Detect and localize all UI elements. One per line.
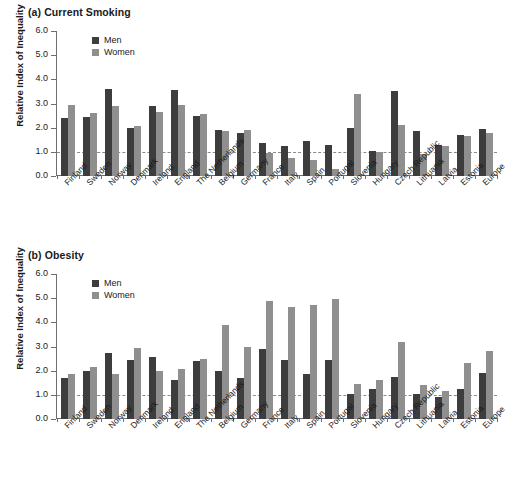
panel-b-x-tick-labels: FinlandSwedenNorwayDenmarkIrelandEngland… <box>0 421 509 487</box>
y-tick-mark <box>51 371 56 372</box>
bar-group <box>303 274 318 419</box>
bar-group <box>127 31 142 176</box>
bar-group <box>171 31 186 176</box>
bar-group <box>391 31 406 176</box>
bar-women <box>68 105 75 176</box>
panel-current-smoking: (a) Current Smoking Relative Index of In… <box>0 0 509 244</box>
y-tick-label: 6.0 <box>2 26 48 35</box>
y-tick-mark <box>51 322 56 323</box>
bar-women <box>310 305 317 419</box>
panel-a-y-axis-title: Relative Index of Inequality <box>14 0 25 141</box>
bar-group <box>237 31 252 176</box>
y-tick-label: 5.0 <box>2 50 48 59</box>
bar-men <box>61 118 68 176</box>
bar-women <box>134 348 141 419</box>
bar-group <box>237 274 252 419</box>
bar-men <box>303 374 310 419</box>
panel-b-y-axis-title: Relative Index of Inequality <box>14 234 25 384</box>
bar-group <box>259 274 274 419</box>
bar-group <box>259 31 274 176</box>
y-tick-mark <box>51 128 56 129</box>
y-tick-mark <box>51 104 56 105</box>
bar-group <box>325 274 340 419</box>
y-tick-label: 4.0 <box>2 74 48 83</box>
bar-men <box>325 360 332 419</box>
y-tick-mark <box>51 298 56 299</box>
bar-group <box>457 274 472 419</box>
bar-group <box>391 274 406 419</box>
bar-group <box>171 274 186 419</box>
bar-group <box>127 274 142 419</box>
y-tick-mark <box>51 395 56 396</box>
bar-group <box>369 274 384 419</box>
bar-women <box>288 307 295 419</box>
bar-men <box>171 90 178 176</box>
bar-group <box>61 31 76 176</box>
y-tick-mark <box>51 79 56 80</box>
y-tick-label: 4.0 <box>2 317 48 326</box>
y-tick-mark <box>51 176 56 177</box>
y-tick-mark <box>51 274 56 275</box>
bar-women <box>178 105 185 176</box>
panel-b-plot: Relative Index of Inequality 0.01.02.03.… <box>0 243 509 487</box>
y-tick-label: 6.0 <box>2 269 48 278</box>
bar-women <box>332 299 339 419</box>
bar-group <box>479 274 494 419</box>
bar-group <box>105 274 120 419</box>
y-tick-mark <box>51 55 56 56</box>
bar-group <box>281 31 296 176</box>
bar-group <box>193 31 208 176</box>
bar-group <box>435 274 450 419</box>
bar-group <box>435 31 450 176</box>
y-tick-label: 5.0 <box>2 293 48 302</box>
y-tick-label: 3.0 <box>2 99 48 108</box>
y-tick-label: 2.0 <box>2 366 48 375</box>
bar-group <box>479 31 494 176</box>
bar-group <box>347 274 362 419</box>
bar-group <box>149 274 164 419</box>
y-tick-mark <box>51 347 56 348</box>
panel-a-plot: Relative Index of Inequality 0.01.02.03.… <box>0 0 509 244</box>
bar-women <box>486 351 493 419</box>
y-tick-mark <box>51 31 56 32</box>
y-tick-label: 1.0 <box>2 147 48 156</box>
bar-group <box>347 31 362 176</box>
bar-women <box>112 106 119 176</box>
bar-group <box>61 274 76 419</box>
bar-group <box>281 274 296 419</box>
bar-group <box>83 31 98 176</box>
bar-group <box>457 31 472 176</box>
bar-men <box>61 378 68 419</box>
bar-group <box>149 31 164 176</box>
y-tick-mark <box>51 152 56 153</box>
y-tick-label: 3.0 <box>2 342 48 351</box>
y-tick-mark <box>51 419 56 420</box>
panel-a-x-tick-labels: FinlandSwedenNorwayDenmarkIrelandEngland… <box>0 178 509 244</box>
bar-women <box>266 301 273 419</box>
panel-obesity: (b) Obesity Relative Index of Inequality… <box>0 243 509 487</box>
bar-group <box>325 31 340 176</box>
bar-group <box>83 274 98 419</box>
bar-group <box>369 31 384 176</box>
bar-group <box>105 31 120 176</box>
bar-group <box>193 274 208 419</box>
bar-group <box>303 31 318 176</box>
y-tick-label: 1.0 <box>2 390 48 399</box>
y-tick-label: 2.0 <box>2 123 48 132</box>
bar-men <box>303 141 310 176</box>
